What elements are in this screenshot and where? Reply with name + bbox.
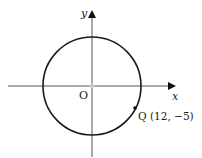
origin-label: O [79, 89, 88, 102]
y-axis-label: y [80, 7, 88, 20]
point-q [133, 106, 137, 110]
point-q-label: Q (12, −5) [138, 110, 194, 122]
x-axis-label: x [172, 90, 179, 103]
diagram-canvas: y x O Q (12, −5) [0, 0, 202, 158]
origin-point [90, 84, 95, 89]
coordinate-diagram: y x O Q (12, −5) [0, 0, 202, 158]
